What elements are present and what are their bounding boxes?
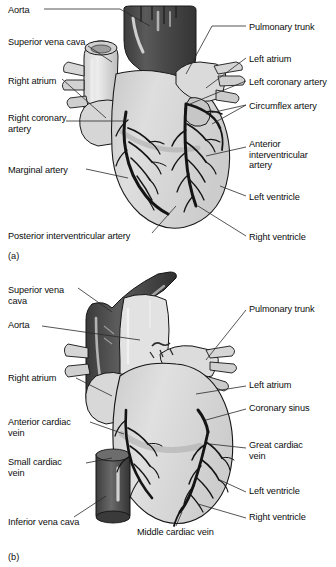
label-left-coronary-artery-a: Left coronary artery xyxy=(249,77,327,88)
label-superior-vena-cava-b: Superior vena cava xyxy=(8,285,64,306)
label-left-atrium-a: Left atrium xyxy=(249,54,291,65)
ventricular-mass-shape-b xyxy=(113,363,233,523)
label-circumflex-artery-a: Circumflex artery xyxy=(249,101,317,112)
panel-a: Aorta Superior vena cava Right atrium Ri… xyxy=(0,0,336,268)
label-right-atrium-a: Right atrium xyxy=(8,76,56,87)
label-posterior-interventricular-artery-a: Posterior interventricular artery xyxy=(8,231,130,242)
label-small-cardiac-vein-b: Small cardiac vein xyxy=(8,457,62,478)
label-left-ventricle-a: Left ventricle xyxy=(249,192,300,203)
label-aorta-a: Aorta xyxy=(8,5,29,16)
label-right-atrium-b: Right atrium xyxy=(8,373,56,384)
figure-page: Aorta Superior vena cava Right atrium Ri… xyxy=(0,0,336,567)
label-superior-vena-cava-a: Superior vena cava xyxy=(8,37,85,48)
label-inferior-vena-cava-b: Inferior vena cava xyxy=(8,517,79,528)
panel-a-caption: (a) xyxy=(8,251,19,261)
label-pulmonary-trunk-a: Pulmonary trunk xyxy=(249,22,314,33)
label-right-coronary-artery-a: Right coronary artery xyxy=(8,113,66,134)
panel-b-caption: (b) xyxy=(8,552,19,562)
label-marginal-artery-a: Marginal artery xyxy=(8,165,68,176)
label-great-cardiac-vein-b: Great cardiac vein xyxy=(249,440,303,461)
label-anterior-interventricular-artery-a: Anterior interventricular artery xyxy=(249,139,308,171)
panel-b: Superior vena cava Aorta Right atrium An… xyxy=(0,268,336,567)
right-pulmonary-vein-stubs xyxy=(62,62,88,108)
label-right-ventricle-a: Right ventricle xyxy=(249,232,306,243)
label-left-ventricle-b: Left ventricle xyxy=(249,486,300,497)
label-left-atrium-b: Left atrium xyxy=(249,380,291,391)
label-right-ventricle-b: Right ventricle xyxy=(249,512,306,523)
label-aorta-b: Aorta xyxy=(8,320,29,331)
label-coronary-sinus-b: Coronary sinus xyxy=(249,403,309,414)
label-pulmonary-trunk-b: Pulmonary trunk xyxy=(249,304,314,315)
label-middle-cardiac-vein-b: Middle cardiac vein xyxy=(137,527,214,538)
label-anterior-cardiac-vein-b: Anterior cardiac vein xyxy=(8,417,71,438)
